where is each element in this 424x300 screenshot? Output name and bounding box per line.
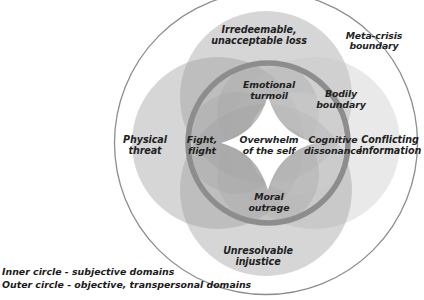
label-outer-domain-physical-threat: Physical threat	[110, 135, 180, 156]
label-outer-domain-irredeemable-loss: Irredeemable, unacceptable loss	[196, 25, 322, 46]
caption-line-inner-circle: Inner circle - subjective domains	[2, 265, 251, 278]
label-inner-domain-moral-outrage: Moral outrage	[234, 192, 304, 213]
label-meta-crisis-boundary: Meta-crisis boundary	[332, 31, 416, 52]
label-inner-domain-bodily-boundary: Bodily boundary	[305, 89, 377, 110]
label-inner-domain-emotional-turmoil: Emotional turmoil	[223, 80, 315, 101]
label-inner-domain-cognitive-dissonance: Cognitive dissonance	[300, 135, 366, 156]
label-inner-domain-fight-flight: Fight, flight	[176, 135, 228, 156]
caption-line-outer-circle: Outer circle - objective, transpersonal …	[2, 278, 251, 291]
label-center-overwhelm-of-the-self: Overwhelm of the self	[232, 135, 306, 156]
diagram-caption: Inner circle - subjective domains Outer …	[2, 265, 251, 292]
